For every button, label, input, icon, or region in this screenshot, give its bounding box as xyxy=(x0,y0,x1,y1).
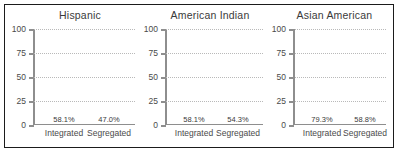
y-tick-label-50: 50 xyxy=(17,72,26,82)
bar-value-integrated: 58.1% xyxy=(53,115,74,124)
y-tick-0 xyxy=(289,125,294,127)
category-label-segregated: Segregated xyxy=(216,128,260,138)
y-tick-label-25: 25 xyxy=(149,96,158,106)
y-tick-label-0: 0 xyxy=(281,120,286,130)
bar-value-integrated: 58.1% xyxy=(183,115,204,124)
y-tick-label-50: 50 xyxy=(277,72,286,82)
category-label-integrated: Integrated xyxy=(45,128,83,138)
chart-figure: Hispanic 100 75 50 25 0 58.1% Integra xyxy=(4,4,394,148)
category-label-segregated: Segregated xyxy=(87,128,131,138)
y-tick-label-100: 100 xyxy=(272,24,286,34)
y-tick-label-25: 25 xyxy=(277,96,286,106)
plot-area: 100 75 50 25 0 58.1% Integrated 54.3% Se… xyxy=(165,29,263,125)
y-tick-label-100: 100 xyxy=(144,24,158,34)
bars-container: 58.1% Integrated 47.0% Segregated xyxy=(33,29,135,125)
bars-container: 58.1% Integrated 54.3% Segregated xyxy=(165,29,263,125)
bar-value-segregated: 54.3% xyxy=(227,115,248,124)
y-tick-label-75: 75 xyxy=(17,48,26,58)
category-label-segregated: Segregated xyxy=(343,128,387,138)
category-label-integrated: Integrated xyxy=(175,128,213,138)
chart-panel-hispanic: Hispanic 100 75 50 25 0 58.1% Integra xyxy=(5,5,141,147)
y-tick-0 xyxy=(29,125,34,127)
y-tick-label-0: 0 xyxy=(21,120,26,130)
panel-title: American Indian xyxy=(141,9,269,21)
y-tick-0 xyxy=(161,125,166,127)
category-label-integrated: Integrated xyxy=(303,128,341,138)
panel-title: Asian American xyxy=(269,9,392,21)
plot-area: 100 75 50 25 0 58.1% Integrated 47.0% Se… xyxy=(33,29,135,125)
y-tick-label-75: 75 xyxy=(277,48,286,58)
bar-value-integrated: 79.3% xyxy=(311,115,332,124)
bars-container: 79.3% Integrated 58.8% Segregated xyxy=(293,29,386,125)
panel-title: Hispanic xyxy=(5,9,141,21)
y-tick-label-25: 25 xyxy=(17,96,26,106)
y-tick-label-100: 100 xyxy=(12,24,26,34)
y-tick-label-0: 0 xyxy=(153,120,158,130)
y-tick-label-75: 75 xyxy=(149,48,158,58)
plot-area: 100 75 50 25 0 79.3% Integrated 58.8% Se… xyxy=(293,29,386,125)
bar-value-segregated: 58.8% xyxy=(354,115,375,124)
chart-panel-american-indian: American Indian 100 75 50 25 0 58.1% xyxy=(141,5,269,147)
chart-panel-asian-american: Asian American 100 75 50 25 0 79.3% I xyxy=(269,5,392,147)
y-tick-label-50: 50 xyxy=(149,72,158,82)
bar-value-segregated: 47.0% xyxy=(98,115,119,124)
